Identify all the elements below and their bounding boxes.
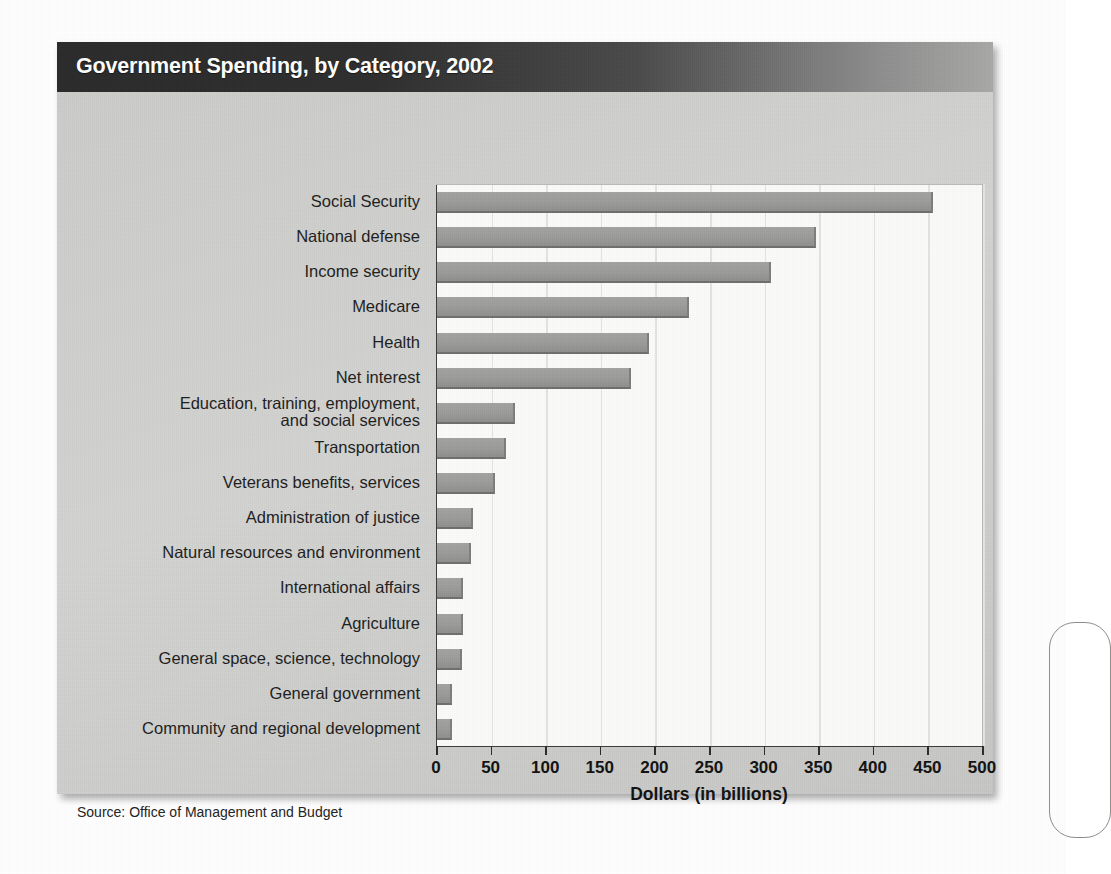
category-label: International affairs [280, 579, 420, 597]
category-label: Community and regional development [142, 720, 420, 738]
x-axis-tick-label: 450 [897, 758, 957, 778]
category-label: National defense [296, 228, 420, 246]
x-axis-tick [982, 746, 984, 755]
x-axis-tick [491, 746, 493, 755]
source-note: Source: Office of Management and Budget [77, 804, 342, 820]
bar [437, 333, 649, 354]
gridline [983, 184, 985, 746]
bar [437, 649, 462, 670]
bar [437, 614, 463, 635]
x-axis-tick-label: 350 [788, 758, 848, 778]
bar [437, 192, 933, 213]
bar [437, 543, 471, 564]
figure-card: Government Spending, by Category, 2002 S… [57, 42, 993, 794]
bar [437, 508, 473, 529]
bar [437, 297, 689, 318]
page-edge-shape [1049, 622, 1111, 838]
bar [437, 227, 816, 248]
category-label: Agriculture [341, 615, 420, 633]
category-label: General space, science, technology [159, 650, 420, 668]
x-axis-tick [600, 746, 602, 755]
bar-series [437, 184, 983, 746]
bar [437, 403, 515, 424]
plot-area [436, 184, 983, 747]
x-axis-tick-label: 300 [734, 758, 794, 778]
bar [437, 368, 631, 389]
bar [437, 719, 452, 740]
x-axis-tick-label: 150 [570, 758, 630, 778]
category-label: Administration of justice [246, 509, 420, 527]
x-axis-tick [764, 746, 766, 755]
title-banner: Government Spending, by Category, 2002 [57, 42, 993, 92]
x-axis-tick [927, 746, 929, 755]
x-axis-tick-label: 500 [952, 758, 1012, 778]
x-axis-tick-label: 100 [515, 758, 575, 778]
x-axis-tick-label: 250 [679, 758, 739, 778]
category-label: Education, training, employment, and soc… [180, 395, 420, 430]
category-label: Veterans benefits, services [223, 474, 420, 492]
x-axis-tick [873, 746, 875, 755]
category-label: Medicare [352, 298, 420, 316]
category-label: General government [270, 685, 420, 703]
category-label: Income security [304, 263, 420, 281]
x-axis-tick [709, 746, 711, 755]
bar [437, 578, 463, 599]
x-axis-tick-label: 0 [406, 758, 466, 778]
x-axis-tick [545, 746, 547, 755]
category-label: Transportation [314, 439, 420, 457]
x-axis-tick [654, 746, 656, 755]
category-axis-labels: Social SecurityNational defenseIncome se… [57, 184, 428, 746]
x-axis-tick-label: 50 [461, 758, 521, 778]
bar [437, 262, 771, 283]
chart-body: Social SecurityNational defenseIncome se… [57, 92, 993, 794]
figure-title: Government Spending, by Category, 2002 [76, 54, 493, 79]
x-axis-tick-label: 200 [624, 758, 684, 778]
category-label: Social Security [311, 193, 420, 211]
x-axis-tick [436, 746, 438, 755]
category-label: Health [372, 334, 420, 352]
x-axis-title: Dollars (in billions) [436, 784, 982, 805]
bar [437, 684, 452, 705]
category-label: Net interest [336, 369, 420, 387]
x-axis-tick-label: 400 [843, 758, 903, 778]
category-label: Natural resources and environment [162, 544, 420, 562]
bar [437, 473, 495, 494]
x-axis-tick [818, 746, 820, 755]
bar [437, 438, 506, 459]
